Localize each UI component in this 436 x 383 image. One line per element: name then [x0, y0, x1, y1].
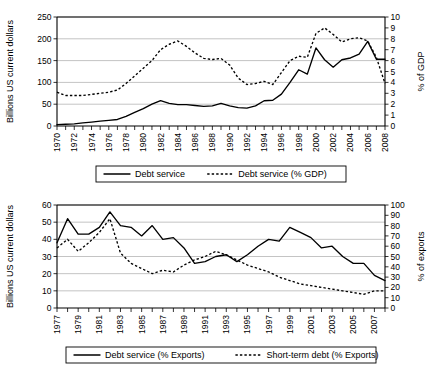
x-tick-label: 2004: [345, 133, 355, 152]
gridlines: [57, 17, 385, 104]
y2-tick-label: 100: [391, 200, 405, 210]
x-tick-label: 2003: [327, 315, 337, 334]
y-tick-label: 150: [37, 56, 51, 66]
y2-tick-label: 4: [391, 77, 396, 87]
x-tick-label: 1986: [190, 133, 200, 152]
x-tick-label: 1997: [264, 315, 274, 334]
x-tick-label: 1994: [259, 133, 269, 152]
x-tick-label: 1980: [138, 133, 148, 152]
series-line-1: [57, 41, 385, 124]
y2-tick-label: 7: [391, 45, 396, 55]
y-tick-label: 200: [37, 34, 51, 44]
y-axis-right-ticks: 012345678910: [385, 12, 400, 131]
x-tick-label: 1995: [242, 315, 252, 334]
x-tick-label: 1977: [52, 315, 62, 334]
series-group: [57, 28, 385, 125]
y2-tick-label: 2: [391, 99, 396, 109]
y-tick-label: 250: [37, 12, 51, 22]
legend-label-2: Debt service (% GDP): [238, 169, 327, 179]
legend: Debt serviceDebt service (% GDP): [96, 166, 346, 182]
y2-tick-label: 5: [391, 67, 396, 77]
x-tick-label: 2005: [348, 315, 358, 334]
x-tick-label: 1984: [173, 133, 183, 152]
y2-tick-label: 10: [391, 293, 401, 303]
x-tick-label: 1999: [285, 315, 295, 334]
axis-titles: Billions US current dollars% of GDP: [5, 19, 426, 123]
y2-tick-label: 80: [391, 221, 401, 231]
x-tick-label: 1976: [104, 133, 114, 152]
chart-debt-service-gdp: 0501001502002500123456789101970197219741…: [0, 0, 436, 190]
y2-tick-label: 0: [391, 121, 396, 131]
x-tick-label: 1982: [156, 133, 166, 152]
y-tick-label: 20: [42, 269, 52, 279]
x-tick-label: 1987: [158, 315, 168, 334]
y2-tick-label: 6: [391, 56, 396, 66]
x-tick-label: 2007: [369, 315, 379, 334]
y-axis-right-title: % of GDP: [416, 51, 426, 91]
x-tick-label: 2006: [363, 133, 373, 152]
y-axis-left-title: Billions US current dollars: [5, 19, 15, 123]
legend-label-1: Debt service: [135, 169, 185, 179]
y-tick-label: 60: [42, 200, 52, 210]
x-tick-label: 1985: [137, 315, 147, 334]
y-axis-left-ticks: 050100150200250: [37, 12, 57, 131]
series-group: [57, 212, 385, 294]
y-tick-label: 30: [42, 252, 52, 262]
x-tick-label: 1974: [87, 133, 97, 152]
chart-2-canvas: 0102030405060010203040506070809010019771…: [0, 190, 436, 383]
legend: Debt service (% Exports)Short-term debt …: [66, 347, 378, 363]
y2-tick-label: 90: [391, 210, 401, 220]
y2-tick-label: 3: [391, 88, 396, 98]
legend-label-2: Short-term debt (% Exports): [266, 350, 378, 360]
x-axis-ticks: 1977197919811983198519871989199119931995…: [52, 308, 385, 334]
y2-tick-label: 9: [391, 23, 396, 33]
x-tick-label: 1996: [276, 133, 286, 152]
x-tick-label: 1981: [94, 315, 104, 334]
x-tick-label: 1992: [242, 133, 252, 152]
y2-tick-label: 8: [391, 34, 396, 44]
x-tick-label: 2002: [328, 133, 338, 152]
x-tick-label: 1988: [207, 133, 217, 152]
y-tick-label: 0: [47, 121, 52, 131]
y-axis-left-title: Billions US current dollars: [5, 204, 15, 308]
y2-tick-label: 20: [391, 282, 401, 292]
y2-tick-label: 60: [391, 241, 401, 251]
y-tick-label: 50: [42, 99, 52, 109]
x-tick-label: 1991: [200, 315, 210, 334]
y-axis-right-ticks: 0102030405060708090100: [385, 200, 405, 313]
y-tick-label: 100: [37, 77, 51, 87]
y2-tick-label: 1: [391, 110, 396, 120]
y-axis-left-ticks: 0102030405060: [42, 200, 57, 313]
y2-tick-label: 50: [391, 252, 401, 262]
x-tick-label: 1990: [225, 133, 235, 152]
y-tick-label: 40: [42, 234, 52, 244]
x-tick-label: 1978: [121, 133, 131, 152]
axes: [57, 17, 385, 126]
y-axis-right-title: % of exports: [416, 231, 426, 282]
x-tick-label: 1979: [73, 315, 83, 334]
figure-page: 0501001502002500123456789101970197219741…: [0, 0, 436, 383]
y-tick-label: 50: [42, 217, 52, 227]
chart-1-canvas: 0501001502002500123456789101970197219741…: [0, 0, 436, 190]
y-tick-label: 10: [42, 286, 52, 296]
x-axis-ticks: 1970197219741976197819801982198419861988…: [52, 126, 390, 152]
x-tick-label: 1983: [115, 315, 125, 334]
y2-tick-label: 70: [391, 231, 401, 241]
y2-tick-label: 30: [391, 272, 401, 282]
y2-tick-label: 40: [391, 262, 401, 272]
y-tick-label: 0: [47, 303, 52, 313]
x-tick-label: 1970: [52, 133, 62, 152]
x-tick-label: 2001: [306, 315, 316, 334]
x-tick-label: 1989: [179, 315, 189, 334]
x-tick-label: 2000: [311, 133, 321, 152]
y2-tick-label: 10: [391, 12, 401, 22]
x-tick-label: 2008: [380, 133, 390, 152]
x-tick-label: 1972: [69, 133, 79, 152]
legend-label-1: Debt service (% Exports): [105, 350, 205, 360]
series-line-2: [57, 28, 385, 96]
x-tick-label: 1993: [221, 315, 231, 334]
chart-debt-service-exports: 0102030405060010203040506070809010019771…: [0, 190, 436, 383]
y2-tick-label: 0: [391, 303, 396, 313]
x-tick-label: 1998: [294, 133, 304, 152]
